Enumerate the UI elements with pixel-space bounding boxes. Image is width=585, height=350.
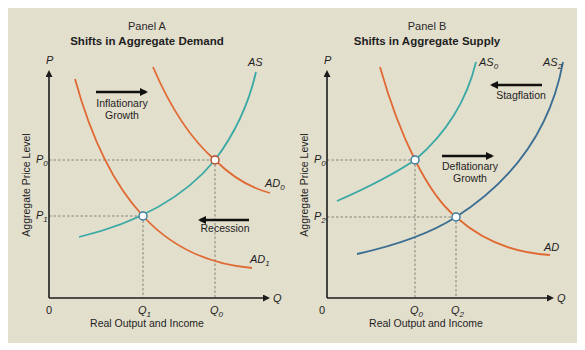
x-axis-symbol: Q [273, 292, 282, 304]
origin-label: 0 [319, 304, 325, 316]
panel-b-subtitle: Shifts in Aggregate Supply [354, 35, 501, 47]
y-axis-title: Aggregate Price Level [298, 133, 310, 236]
inflationary-growth-label-line2: Growth [105, 109, 139, 121]
ad-label: AD [543, 241, 559, 253]
deflationary-growth-label: Deflationary [442, 160, 499, 172]
y-axis-symbol: P [324, 54, 332, 66]
origin-label: 0 [46, 304, 52, 316]
equilibrium-point-p1 [139, 212, 147, 220]
y-axis-title: Aggregate Price Level [20, 133, 32, 236]
panel-a-title: Panel A [128, 20, 167, 32]
recession-label: Recession [200, 222, 249, 234]
stagflation-label: Stagflation [496, 89, 546, 101]
x-axis-title: Real Output and Income [369, 317, 483, 329]
as-label: AS [247, 56, 263, 68]
panel-b-title: Panel B [408, 20, 447, 32]
deflationary-growth-label-line2: Growth [453, 172, 487, 184]
equilibrium-point-p0 [411, 156, 419, 164]
equilibrium-point-p0 [211, 156, 219, 164]
x-axis-title: Real Output and Income [90, 317, 204, 329]
x-axis-symbol: Q [557, 292, 566, 304]
economics-chart: Panel A Shifts in Aggregate Demand P Q 0… [0, 0, 585, 350]
inflationary-growth-label: Inflationary [96, 97, 148, 109]
equilibrium-point-p2 [452, 213, 460, 221]
y-axis-symbol: P [46, 54, 54, 66]
panel-a-subtitle: Shifts in Aggregate Demand [70, 35, 224, 47]
